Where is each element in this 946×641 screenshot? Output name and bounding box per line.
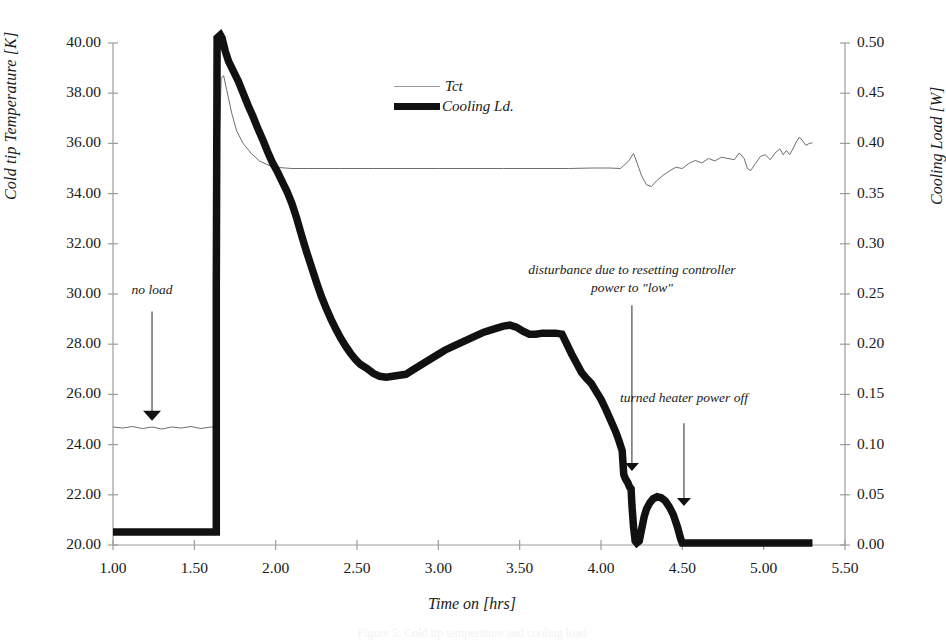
annotation-heater-off: turned heater power off — [484, 389, 884, 407]
annotation-disturbance: disturbance due to resetting controller … — [432, 261, 832, 297]
legend-item-cooling-load: Cooling Ld. — [394, 96, 514, 116]
x-tick-label: 2.00 — [246, 559, 306, 577]
y-tick-label-right: 0.35 — [857, 184, 917, 202]
y-tick-label-right: 0.10 — [857, 435, 917, 453]
y-tick-label-left: 40.00 — [41, 33, 101, 51]
y-tick-label-right: 0.40 — [857, 133, 917, 151]
legend-label-cooling-load: Cooling Ld. — [442, 98, 514, 115]
y-axis-left-label: Cold tip Temperature [K] — [2, 31, 20, 200]
y-tick-label-right: 0.20 — [857, 334, 917, 352]
y-tick-label-left: 38.00 — [41, 83, 101, 101]
figure-caption: Figure 5: Cold tip temperature and cooli… — [0, 626, 944, 641]
x-tick-label: 5.00 — [734, 559, 794, 577]
x-tick-label: 3.00 — [408, 559, 468, 577]
y-tick-label-right: 0.30 — [857, 234, 917, 252]
x-tick-label: 1.00 — [83, 559, 143, 577]
y-tick-label-left: 22.00 — [41, 485, 101, 503]
legend-item-tct: Tct — [394, 76, 514, 96]
y-tick-label-left: 28.00 — [41, 334, 101, 352]
y-tick-label-right: 0.45 — [857, 83, 917, 101]
y-axis-right-label: Cooling Load [W] — [928, 87, 946, 205]
arrow-heater-off-head — [677, 498, 691, 506]
y-tick-label-left: 20.00 — [41, 535, 101, 553]
thin-line-swatch-icon — [394, 86, 440, 87]
y-tick-label-left: 34.00 — [41, 184, 101, 202]
x-tick-label: 4.00 — [571, 559, 631, 577]
x-tick-label: 1.50 — [164, 559, 224, 577]
legend-label-tct: Tct — [445, 78, 463, 95]
annotation-no-load: no load — [0, 281, 352, 299]
arrow-no-load-head — [143, 411, 161, 421]
thick-line-swatch-icon — [394, 103, 440, 110]
y-tick-label-right: 0.50 — [857, 33, 917, 51]
x-tick-label: 2.50 — [327, 559, 387, 577]
y-tick-label-right: 0.00 — [857, 535, 917, 553]
y-tick-label-left: 26.00 — [41, 384, 101, 402]
y-tick-label-left: 24.00 — [41, 435, 101, 453]
y-tick-label-right: 0.25 — [857, 284, 917, 302]
y-tick-label-right: 0.05 — [857, 485, 917, 503]
y-tick-label-left: 32.00 — [41, 234, 101, 252]
x-tick-label: 5.50 — [815, 559, 875, 577]
x-tick-label: 4.50 — [652, 559, 712, 577]
x-axis-label: Time on [hrs] — [0, 595, 944, 613]
x-tick-label: 3.50 — [490, 559, 550, 577]
legend: Tct Cooling Ld. — [394, 76, 514, 116]
y-tick-label-left: 36.00 — [41, 133, 101, 151]
